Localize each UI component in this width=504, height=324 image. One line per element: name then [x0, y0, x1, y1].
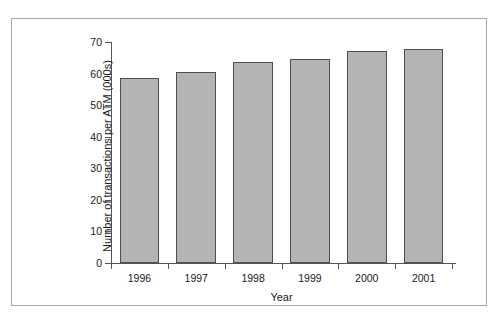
- x-axis-tick-label: 1997: [166, 272, 226, 284]
- y-axis-title: Number of transactions per ATM (000s): [101, 41, 113, 271]
- bar: [404, 49, 444, 263]
- x-axis-tick: [338, 264, 339, 269]
- x-axis-tick: [452, 264, 453, 269]
- bar: [120, 78, 160, 263]
- figure-frame: 010203040506070 199619971998199920002001…: [11, 18, 487, 306]
- x-axis-title: Year: [111, 291, 452, 303]
- x-axis-tick-label: 2001: [394, 272, 454, 284]
- bar: [347, 51, 387, 263]
- bar: [290, 59, 330, 263]
- x-axis-tick: [395, 264, 396, 269]
- x-axis-tick-label: 1998: [223, 272, 283, 284]
- bar-chart: 010203040506070 199619971998199920002001…: [12, 19, 488, 307]
- bar: [176, 72, 216, 263]
- x-axis-tick: [168, 264, 169, 269]
- x-axis-line: [111, 263, 456, 264]
- bar: [233, 62, 273, 263]
- x-axis-tick: [225, 264, 226, 269]
- y-axis-title-holder: Number of transactions per ATM (000s): [61, 37, 77, 267]
- x-axis-tick-label: 1996: [109, 272, 169, 284]
- x-axis-tick-label: 1999: [280, 272, 340, 284]
- x-axis-tick: [282, 264, 283, 269]
- x-axis-tick-label: 2000: [337, 272, 397, 284]
